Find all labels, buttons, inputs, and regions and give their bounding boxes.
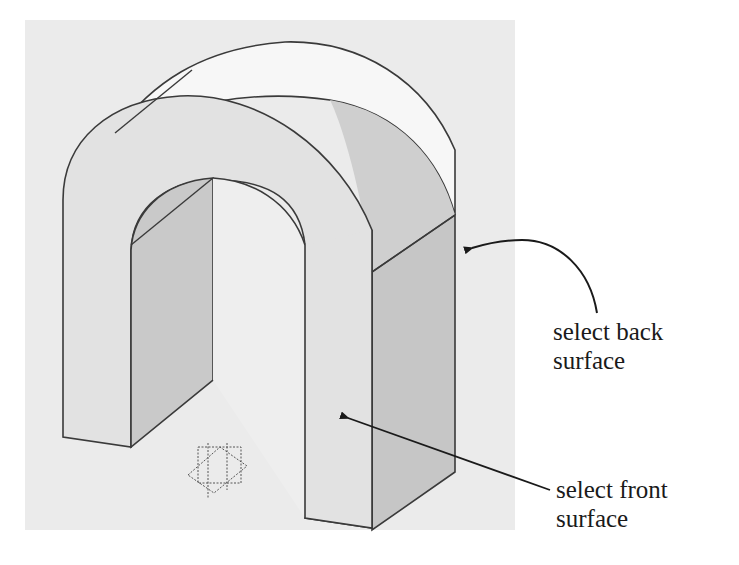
label-line: surface: [553, 346, 663, 375]
label-line: select front: [556, 475, 668, 504]
select-back-surface-label: select back surface: [553, 317, 663, 375]
label-line: select back: [553, 317, 663, 346]
label-line: surface: [556, 504, 668, 533]
select-front-surface-label: select front surface: [556, 475, 668, 533]
